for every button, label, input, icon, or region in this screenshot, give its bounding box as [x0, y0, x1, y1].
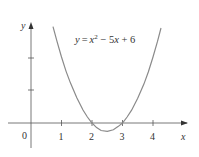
y-axis-arrow-icon [29, 22, 34, 29]
x-tick-label-4: 4 [150, 131, 155, 142]
x-axis-label: x [180, 131, 186, 142]
origin-label: 0 [22, 130, 27, 141]
x-tick-label-1: 1 [59, 131, 64, 142]
x-axis-arrow-icon [181, 121, 188, 126]
x-tick-label-3: 3 [120, 131, 125, 142]
equation-label: y=x2 − 5x + 6 [74, 33, 135, 45]
x-tick-label-2: 2 [89, 131, 94, 142]
y-axis-label: y [20, 20, 26, 31]
parabola-chart: 0 1 2 3 4 x y y=x2 − 5x + 6 [0, 0, 199, 157]
